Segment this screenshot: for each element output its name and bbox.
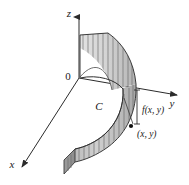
surface-tail-fill [64,149,75,174]
line-integral-surface-figure: z y x 0 C f(x, y) (x, y) [0,0,189,185]
figure-canvas: z y x 0 C f(x, y) (x, y) [0,0,189,185]
curve-c-label: C [95,100,103,112]
point-coordinate-label: (x, y) [137,129,157,140]
surface-tail-fold [64,149,75,174]
y-axis-label: y [169,97,175,109]
origin-label: 0 [65,70,71,82]
height-value-label: f(x, y) [142,105,164,116]
x-axis-label: x [9,158,15,170]
z-axis-label: z [66,7,72,19]
point-marker-dot [129,124,133,128]
